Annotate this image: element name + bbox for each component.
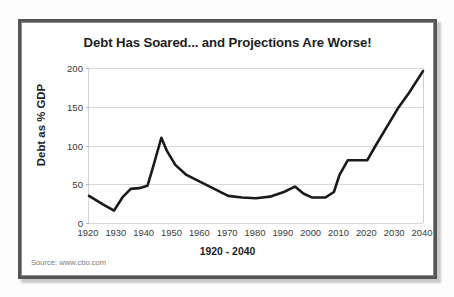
x-tick-label-1970: 1970	[217, 227, 238, 238]
x-tick-label-1950: 1950	[161, 227, 182, 238]
plot-area: 050100150200	[88, 68, 424, 223]
chart-frame: Debt Has Soared... and Projections Are W…	[18, 19, 437, 279]
y-axis-title: Debt as % GDP	[35, 75, 47, 175]
y-tick-label-150: 150	[67, 101, 83, 112]
x-tick-label-2040: 2040	[412, 227, 433, 238]
x-tick-label-1980: 1980	[245, 227, 266, 238]
x-tick-label-2000: 2000	[300, 227, 321, 238]
y-tick-label-50: 50	[72, 179, 83, 190]
source-note: Source: www.cbo.com	[31, 258, 106, 267]
gridline-0	[89, 223, 423, 224]
page-background: Debt Has Soared... and Projections Are W…	[0, 0, 454, 297]
debt-line-series	[89, 68, 423, 223]
x-axis-title: 1920 - 2040	[22, 246, 433, 257]
x-tick-label-1930: 1930	[105, 227, 126, 238]
x-tick-label-1960: 1960	[189, 227, 210, 238]
x-tick-label-1940: 1940	[133, 227, 154, 238]
x-tick-label-2030: 2030	[384, 227, 405, 238]
chart-title: Debt Has Soared... and Projections Are W…	[22, 35, 433, 50]
y-tick-mark-0	[86, 223, 89, 224]
x-axis-tick-labels: 1920193019401950196019701980199020002010…	[86, 227, 424, 243]
y-tick-label-100: 100	[67, 140, 83, 151]
x-tick-label-2010: 2010	[328, 227, 349, 238]
x-tick-label-2020: 2020	[356, 227, 377, 238]
x-tick-label-1990: 1990	[272, 227, 293, 238]
y-tick-label-200: 200	[67, 63, 83, 74]
x-tick-label-1920: 1920	[78, 227, 99, 238]
chart-inner-border: Debt Has Soared... and Projections Are W…	[21, 22, 434, 276]
